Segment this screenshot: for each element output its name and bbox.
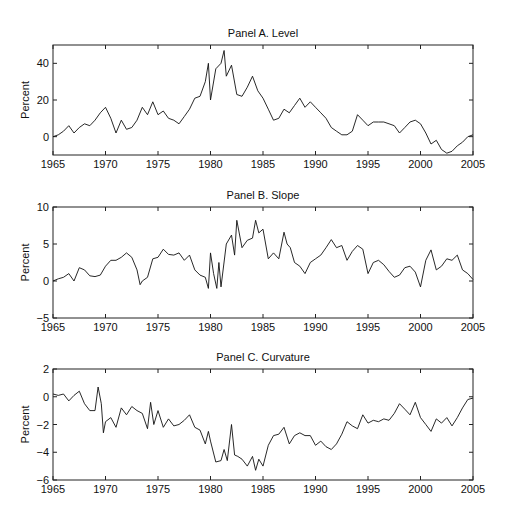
x-tick-label: 1990 (303, 321, 327, 333)
plot-frame (53, 369, 473, 480)
x-tick-label: 1975 (146, 483, 170, 495)
x-tick-label: 1985 (251, 158, 275, 170)
x-tick-label: 1970 (93, 321, 117, 333)
y-axis-label: Percent (19, 81, 31, 119)
y-tick-label: 0 (43, 391, 49, 403)
x-tick-label: 1980 (198, 483, 222, 495)
x-tick-label: 1980 (198, 321, 222, 333)
panel-title: Panel B. Slope (227, 189, 300, 201)
y-tick-label: 2 (43, 363, 49, 375)
x-tick-label: 2005 (461, 321, 485, 333)
x-tick-label: 1985 (251, 321, 275, 333)
panel-b-slope: Panel B. Slope Percent 19651970197519801… (19, 189, 485, 333)
x-tick-label: 1970 (93, 158, 117, 170)
level-series-line (53, 51, 473, 154)
y-tick-label: 10 (37, 201, 49, 213)
axis-ticks: 196519701975198019851990199520002005−505… (36, 201, 485, 333)
y-tick-label: 0 (43, 275, 49, 287)
x-tick-label: 1980 (198, 158, 222, 170)
x-tick-label: 1990 (303, 158, 327, 170)
x-tick-label: 2005 (461, 158, 485, 170)
y-tick-label: −6 (36, 474, 49, 486)
figure: Panel A. Level Percent 19651970197519801… (0, 0, 511, 522)
axis-ticks: 1965197019751980198519901995200020050204… (37, 45, 485, 170)
x-tick-label: 2000 (408, 321, 432, 333)
panel-c-curvature: Panel C. Curvature Percent 1965197019751… (19, 351, 485, 495)
x-tick-label: 1990 (303, 483, 327, 495)
x-tick-label: 2005 (461, 483, 485, 495)
x-tick-label: 1995 (356, 158, 380, 170)
slope-series-line (53, 220, 473, 288)
y-tick-label: 0 (43, 131, 49, 143)
x-tick-label: 1965 (41, 158, 65, 170)
y-tick-label: −5 (36, 312, 49, 324)
plot-frame (53, 45, 473, 155)
panel-title: Panel C. Curvature (216, 351, 310, 363)
x-tick-label: 1970 (93, 483, 117, 495)
x-tick-label: 2000 (408, 483, 432, 495)
y-tick-label: −4 (36, 446, 49, 458)
panel-title: Panel A. Level (228, 27, 298, 39)
y-tick-label: 20 (37, 94, 49, 106)
x-tick-label: 2000 (408, 158, 432, 170)
y-tick-label: 40 (37, 57, 49, 69)
curvature-series-line (53, 387, 473, 470)
panel-a-level: Panel A. Level Percent 19651970197519801… (19, 27, 485, 170)
y-tick-label: −2 (36, 419, 49, 431)
y-tick-label: 5 (43, 238, 49, 250)
x-tick-label: 1995 (356, 483, 380, 495)
y-axis-label: Percent (19, 244, 31, 282)
x-tick-label: 1995 (356, 321, 380, 333)
plot-frame (53, 207, 473, 318)
x-tick-label: 1985 (251, 483, 275, 495)
x-tick-label: 1975 (146, 158, 170, 170)
y-axis-label: Percent (19, 406, 31, 444)
x-tick-label: 1975 (146, 321, 170, 333)
